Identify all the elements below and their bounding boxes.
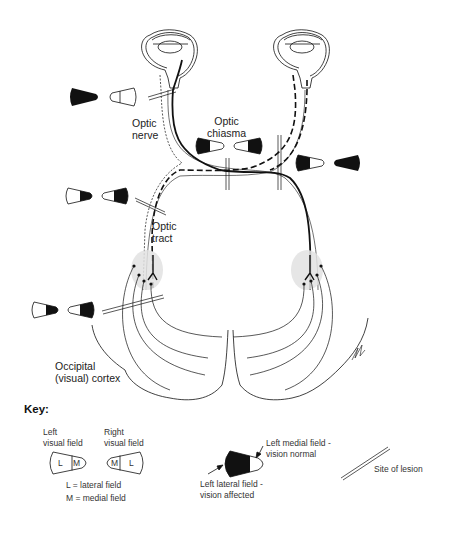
field-right-eye-lesion1 bbox=[110, 88, 136, 106]
field-left-eye-lesion1 bbox=[70, 88, 98, 106]
key-site-of-lesion-label: Site of lesion bbox=[374, 464, 423, 475]
key-lateral-affected-label: Left lateral field - vision affected bbox=[200, 479, 263, 501]
label-optic-nerve: Optic nerve bbox=[132, 117, 158, 141]
right-eye bbox=[274, 30, 330, 88]
key-legend-m: M = medial field bbox=[66, 493, 126, 504]
visual-pathway-diagram bbox=[0, 0, 453, 535]
field-right-lesion4 bbox=[102, 188, 128, 204]
key-right-l: L bbox=[129, 458, 134, 468]
key-left-visual-field-label: Left visual field bbox=[43, 427, 83, 449]
label-optic-chiasma: Optic chiasma bbox=[207, 115, 246, 139]
field-left-lesion2 bbox=[196, 138, 224, 154]
field-right-lesion2 bbox=[234, 138, 262, 154]
key-medial-normal-label: Left medial field - vision normal bbox=[266, 438, 331, 460]
key-title: Key: bbox=[24, 403, 49, 415]
key-left-visual-field bbox=[50, 452, 86, 474]
lesion-marks bbox=[102, 89, 281, 314]
key-right-visual-field-label: Right visual field bbox=[104, 427, 144, 449]
key-right-m: M bbox=[111, 458, 118, 468]
artist-signature bbox=[352, 345, 365, 360]
field-left-lesion3 bbox=[296, 155, 324, 171]
left-eye bbox=[142, 30, 198, 88]
field-right-lesion3 bbox=[334, 155, 360, 171]
key-left-m: M bbox=[73, 458, 80, 468]
key-left-l: L bbox=[58, 458, 63, 468]
label-occipital-cortex: Occipital (visual) cortex bbox=[55, 360, 120, 384]
field-right-lesion5 bbox=[68, 302, 94, 318]
field-left-lesion5 bbox=[32, 302, 58, 318]
key-legend-l: L = lateral field bbox=[66, 480, 121, 491]
right-lgn bbox=[291, 250, 323, 290]
optic-pathways bbox=[143, 60, 318, 290]
field-left-lesion4 bbox=[66, 188, 92, 204]
label-optic-tract: Optic tract bbox=[152, 220, 177, 244]
